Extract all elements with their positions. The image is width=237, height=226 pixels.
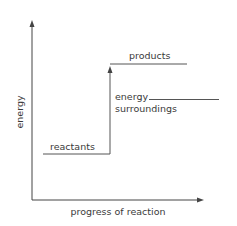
surroundings-label-line2: surroundings bbox=[115, 103, 177, 114]
y-axis-label: energy bbox=[14, 95, 25, 128]
energy-diagram: energy progress of reaction reactants pr… bbox=[0, 0, 237, 226]
x-axis-label: progress of reaction bbox=[71, 206, 166, 217]
reactants-label: reactants bbox=[50, 141, 95, 152]
energy-change-arrowhead-icon bbox=[108, 66, 113, 73]
x-axis-arrowhead-icon bbox=[197, 198, 204, 203]
products-label: products bbox=[129, 50, 171, 61]
x-axis bbox=[32, 198, 204, 203]
y-axis-arrowhead-icon bbox=[30, 20, 35, 27]
y-axis bbox=[30, 20, 35, 200]
surroundings-label-line1: energy bbox=[115, 91, 148, 102]
